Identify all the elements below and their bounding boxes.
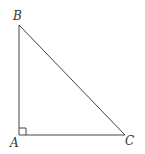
right-angle-marker <box>19 128 26 135</box>
side-bc-hypotenuse <box>19 25 125 135</box>
vertex-label-a: A <box>9 136 19 150</box>
triangle-diagram: A B C <box>0 0 145 154</box>
vertex-label-c: C <box>125 134 134 148</box>
vertex-label-b: B <box>12 9 22 23</box>
